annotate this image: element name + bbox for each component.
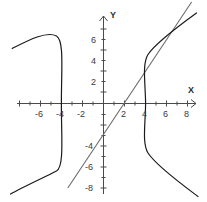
- y-tick-label-6: 6: [91, 36, 96, 45]
- x-tick-label-8: 8: [184, 110, 189, 119]
- x-tick-label-minus2: -2: [77, 110, 85, 119]
- x-tick-label-minus4: -4: [56, 110, 64, 119]
- straight-line-plot: [68, 2, 192, 188]
- graph-figure: -6 -4 -2 2 4 6 8 6 4 2 -4 -6 -8 X Y: [0, 0, 207, 202]
- plot-canvas: [0, 0, 207, 202]
- y-tick-label-2: 2: [91, 78, 96, 87]
- y-tick-label-4: 4: [91, 57, 96, 66]
- x-tick-label-minus6: -6: [35, 110, 43, 119]
- x-tick-label-4: 4: [142, 110, 147, 119]
- x-tick-label-2: 2: [121, 110, 126, 119]
- y-axis-label: Y: [110, 11, 116, 20]
- x-tick-label-6: 6: [163, 110, 168, 119]
- y-tick-label-minus6: -6: [85, 163, 93, 172]
- y-tick-label-minus4: -4: [85, 142, 93, 151]
- x-axis-label: X: [188, 86, 194, 95]
- hyperbola-right-branch-plot: [144, 13, 198, 197]
- y-tick-label-minus8: -8: [85, 184, 93, 193]
